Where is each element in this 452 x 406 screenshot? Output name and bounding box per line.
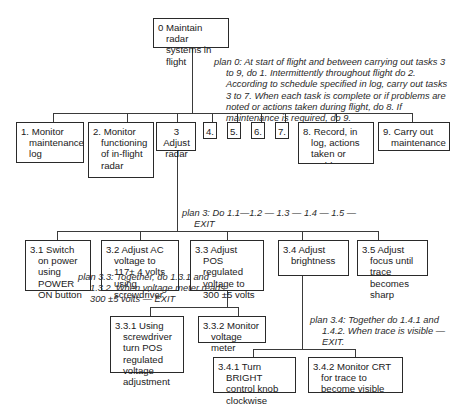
task-3-3-1-turn-pos-adjustment: 3.3.1 Using screwdriver turn POS regulat…: [110, 316, 184, 373]
task-8-record-log: 8. Record, in log, actions taken or prob…: [298, 122, 374, 164]
connector-to-1: [53, 113, 54, 122]
connector-level3b-bus: [253, 349, 355, 350]
connector-to-3-3-2: [238, 307, 239, 316]
connector-3-4-down: [302, 275, 303, 350]
task-3-5-adjust-focus: 3.5 Adjust focus until trace becomes sha…: [357, 240, 428, 276]
task-1-monitor-log: 1. Monitor maintenance log: [16, 122, 84, 163]
task-0-maintain-radar: 0 Maintain radar systems in flight: [153, 18, 229, 48]
connector-to-3-1: [57, 231, 58, 240]
task-6: 6.: [251, 122, 265, 139]
task-3-4-2-monitor-crt: 3.4.2 Monitor CRT for trace to become vi…: [308, 357, 403, 393]
task-5: 5.: [227, 122, 241, 139]
connector-to-4: [212, 113, 213, 122]
connector-to-3-2: [140, 231, 141, 240]
connector-to-2: [127, 113, 128, 122]
plan-3-4-text: plan 3.4: Together do 1.4.1 and 1.4.2. W…: [310, 315, 445, 349]
task-3-4-1-turn-bright-knob: 3.4.1 Turn BRIGHT control knob clockwise: [213, 357, 296, 393]
connector-to-3: [177, 113, 178, 122]
plan-3-3-text: plan 3.3: Together, do 1.3.1 and 1.3.2. …: [78, 272, 228, 306]
task-9-carry-out-maintenance: 9. Carry out maintenance: [378, 122, 450, 151]
connector-to-3-4-2: [355, 349, 356, 357]
plan-0-text: plan 0: At start of flight and between c…: [214, 57, 452, 124]
connector-to-3-5: [378, 231, 379, 240]
connector-level2-bus: [57, 231, 379, 232]
connector-to-3-4: [302, 231, 303, 240]
task-3-4-adjust-brightness: 3.4 Adjust brightness: [278, 240, 349, 276]
task-2-monitor-radar: 2. Monitor functioning of in-flight rada…: [88, 122, 154, 178]
task-7: 7.: [275, 122, 289, 139]
task-4: 4.: [203, 122, 217, 139]
task-3-adjust-radar: 3 Adjust radar: [156, 122, 196, 151]
connector-to-3-3: [227, 231, 228, 240]
connector-to-3-3-1: [150, 307, 151, 316]
connector-level3a-bus: [150, 307, 238, 308]
connector-3-down: [177, 150, 178, 232]
plan-3-text: plan 3: Do 1.1—1.2 — 1.3 — 1.4 — 1.5 — E…: [182, 208, 372, 230]
task-3-3-2-monitor-voltage-meter: 3.3.2 Monitor voltage meter: [198, 316, 266, 343]
